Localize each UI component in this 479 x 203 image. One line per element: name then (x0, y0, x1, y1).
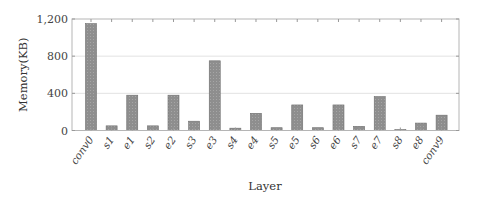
y-tick-label: 1,200 (37, 13, 69, 26)
y-tick-label: 800 (47, 50, 68, 63)
y-tick-label: 0 (61, 125, 68, 138)
bars (86, 24, 448, 131)
bar-e6 (333, 105, 344, 131)
x-tick-label: s4 (223, 134, 240, 151)
x-tick-label: s8 (388, 134, 405, 151)
x-axis-label: Layer (248, 179, 282, 193)
x-tick-label: e2 (161, 134, 178, 152)
x-tick-label: e4 (243, 134, 260, 151)
bar-e1 (127, 95, 138, 130)
y-tick-labels: 04008001,200 (37, 13, 69, 138)
x-tick-label: conv9 (418, 134, 446, 167)
x-tick-label: s7 (347, 134, 364, 151)
bar-conv0 (86, 24, 97, 131)
x-tick-label: e8 (408, 134, 425, 152)
x-tick-label: e3 (202, 134, 219, 152)
bar-e3 (209, 61, 220, 131)
bar-e5 (292, 105, 303, 131)
x-tick-label: s3 (182, 134, 199, 151)
x-tick-label: e6 (326, 134, 343, 152)
x-tick-labels: conv0s1e1s2e2s3e3s4e4s5e5s6e6s7e7s8e8con… (68, 134, 447, 167)
gridlines (72, 56, 459, 93)
y-axis-label: Memory(KB) (16, 38, 30, 112)
x-tick-label: s1 (100, 134, 117, 151)
x-tick-label: e5 (285, 134, 302, 152)
bar-e7 (374, 97, 385, 131)
x-tick-label: s6 (306, 134, 323, 151)
x-tick-label: conv0 (68, 134, 96, 167)
y-tick-label: 400 (47, 87, 68, 100)
bar-e2 (168, 95, 179, 130)
x-tick-label: e1 (120, 134, 137, 151)
x-tick-label: s2 (141, 134, 158, 151)
x-tick-label: e7 (367, 134, 384, 152)
x-tick-label: s5 (264, 134, 281, 151)
bar-chart: 04008001,200 conv0s1e1s2e2s3e3s4e4s5e5s6… (0, 0, 479, 203)
